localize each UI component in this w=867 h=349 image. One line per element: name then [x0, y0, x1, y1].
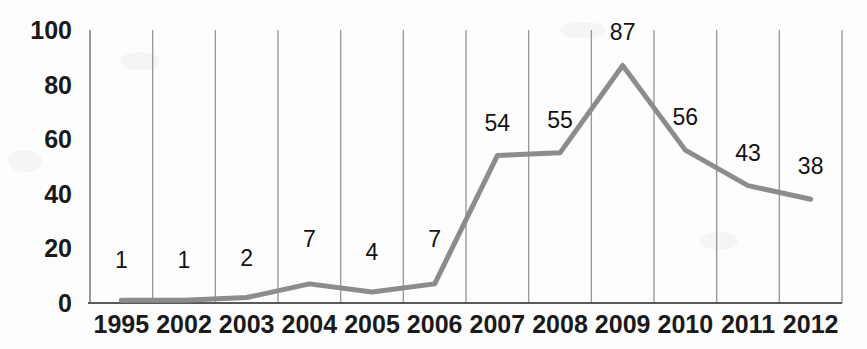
data-point-label: 1 [178, 249, 191, 272]
data-point-label: 43 [735, 141, 761, 164]
data-point-label: 7 [303, 227, 316, 250]
data-point-label: 1 [115, 249, 128, 272]
line-chart: 020406080100 199520022003200420052006200… [0, 0, 867, 349]
data-point-label: 54 [485, 111, 511, 134]
data-point-label: 38 [798, 155, 824, 178]
data-point-label: 7 [428, 227, 441, 250]
data-point-labels: 112747545587564338 [0, 0, 867, 349]
data-point-label: 55 [547, 108, 573, 131]
data-point-label: 87 [610, 21, 636, 44]
data-point-label: 4 [366, 241, 379, 264]
data-point-label: 2 [240, 246, 253, 269]
data-point-label: 56 [673, 106, 699, 129]
